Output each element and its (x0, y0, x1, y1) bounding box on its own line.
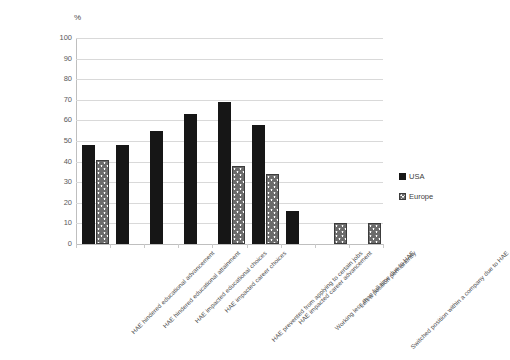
plot-area (76, 38, 383, 244)
bar-group (184, 38, 211, 244)
bar-group (354, 38, 381, 244)
bar-group (320, 38, 347, 244)
legend-item-usa[interactable]: USA (399, 172, 457, 181)
bar-group (218, 38, 245, 244)
bar-europe (266, 174, 279, 244)
bar-usa (218, 102, 231, 244)
legend-item-label: USA (409, 172, 424, 181)
bar-europe (368, 223, 381, 244)
y-axis-tick-label: 50 (52, 137, 72, 145)
bar-usa (184, 114, 197, 244)
legend-item-label: Europe (409, 192, 433, 201)
y-axis-tick-label: 0 (52, 240, 72, 248)
bar-usa (116, 145, 129, 244)
bar-group (116, 38, 143, 244)
y-axis-tick-label: 20 (52, 199, 72, 207)
x-axis-category-label: HAE prevented from applying to certain j… (270, 250, 363, 343)
legend-item-europe[interactable]: Europe (399, 192, 457, 201)
y-axis-tick-label: 30 (52, 178, 72, 186)
y-axis-tick-label: 40 (52, 158, 72, 166)
bar-europe (334, 223, 347, 244)
y-axis-tick-label: 60 (52, 117, 72, 125)
bar-usa (82, 145, 95, 244)
y-axis-tick-label: 10 (52, 220, 72, 228)
x-axis-category-label: HAE impacted career advancement (297, 250, 373, 326)
bar-europe (96, 160, 109, 244)
y-axis-tick-labels: 1009080706050403020100 (50, 38, 72, 244)
x-axis-category-label: Switched position within a company due t… (410, 250, 510, 350)
legend-swatch-icon (399, 173, 406, 180)
bar-group (286, 38, 313, 244)
bar-europe (232, 166, 245, 244)
bar-group (82, 38, 109, 244)
y-axis-tick-label: 70 (52, 96, 72, 104)
y-axis-tick-label: 100 (52, 34, 72, 42)
chart-legend: USAEurope (399, 172, 457, 212)
bar-usa (252, 125, 265, 244)
y-axis-unit-label: % (74, 13, 81, 22)
legend-swatch-icon (399, 193, 406, 200)
bar-usa (150, 131, 163, 244)
bar-group (150, 38, 177, 244)
bar-usa (286, 211, 299, 244)
y-axis-tick-label: 80 (52, 75, 72, 83)
x-axis-category-labels: HAE hindered educational advancementHAE … (0, 248, 459, 360)
y-axis-tick-label: 90 (52, 55, 72, 63)
bar-group (252, 38, 279, 244)
